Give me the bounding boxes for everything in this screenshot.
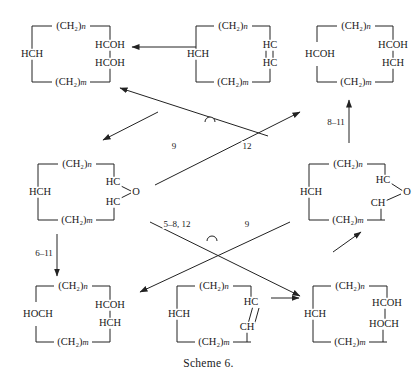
structure-bot-left: (CH₂)n (CH₂)m HOCH HCOH HCH — [18, 276, 128, 354]
chain-bottom: (CH₂)m — [339, 77, 372, 88]
chain-bottom: (CH₂)m — [333, 337, 366, 348]
structure-top-right: (CH₂)n (CH₂)m HCOH HCOH HCH — [305, 14, 410, 94]
chain-bottom: (CH₂)m — [56, 337, 89, 348]
figure-caption: Scheme 6. — [0, 357, 417, 369]
left-group: HCH — [303, 309, 327, 320]
epoxide-oxygen: O — [131, 187, 141, 198]
right-upper-group: HCOH — [371, 298, 403, 309]
arrow-label-upper-cross-right: 12 — [242, 141, 253, 151]
chain-bottom: (CH₂)m — [54, 77, 87, 88]
arrow-diagonal-short-downleft — [103, 112, 158, 140]
left-group: HCH — [186, 49, 210, 60]
chain-top: (CH₂)n — [217, 21, 249, 32]
chain-bottom: (CH₂)m — [331, 215, 364, 226]
crossing-hop-lower — [207, 236, 217, 241]
structure-top-left: (CH₂)n (CH₂)m HCH HCOH HCOH — [18, 14, 126, 94]
left-group: HCH — [28, 187, 52, 198]
arrow-label-lower-cross-left: 5–8, 12 — [163, 219, 192, 229]
crossing-hop-upper — [205, 117, 215, 122]
arrow-midright-to-topleft — [120, 88, 268, 136]
arrow-label-left-vertical: 6–11 — [34, 248, 54, 258]
chain-top: (CH₂)n — [61, 159, 93, 170]
chain-top: (CH₂)n — [55, 21, 87, 32]
left-group: HCOH — [304, 49, 336, 60]
right-lower-group: HOCH — [368, 319, 400, 330]
left-group: HCH — [299, 187, 323, 198]
structure-bot-right: (CH₂)n (CH₂)m HCH HCOH HOCH — [299, 276, 411, 354]
arrow-label-right-vertical: 8–11 — [326, 117, 346, 127]
chain-bottom: (CH₂)m — [197, 337, 230, 348]
arrow-label-upper-cross-left: 9 — [171, 141, 178, 151]
right-upper-group: HCOH — [94, 300, 126, 311]
right-lower-group: HCOH — [94, 58, 126, 69]
chain-bottom: (CH₂)m — [60, 215, 93, 226]
arrow-label-lower-cross-right: 9 — [244, 219, 251, 229]
chain-top: (CH₂)n — [340, 21, 372, 32]
chain-top: (CH₂)n — [57, 281, 89, 292]
right-lower-group: HCH — [381, 58, 405, 69]
epoxide-oxygen: O — [402, 187, 412, 198]
chain-top: (CH₂)n — [332, 159, 364, 170]
chain-top: (CH₂)n — [198, 281, 230, 292]
structure-mid-left: (CH₂)n (CH₂)m HCH HC HC O — [26, 152, 136, 232]
right-lower-group: CH — [370, 198, 387, 209]
right-upper-group: HC — [243, 297, 260, 308]
left-group: HOCH — [22, 309, 54, 320]
left-group: HCH — [20, 49, 44, 60]
structure-bot-center: (CH₂)n (CH₂)m HCH HC CH — [165, 276, 270, 354]
arrow-botcenter-to-midright — [333, 232, 361, 252]
chain-bottom: (CH₂)m — [216, 77, 249, 88]
right-upper-group: HCOH — [377, 40, 409, 51]
right-lower-group: CH — [239, 322, 256, 333]
left-group: HCH — [167, 309, 191, 320]
structure-mid-right: (CH₂)n (CH₂)m HCH HC CH O — [297, 152, 409, 232]
right-lower-group: HC — [105, 197, 122, 208]
right-upper-group: HC — [375, 175, 392, 186]
right-lower-group: HCH — [98, 318, 122, 329]
right-upper-group: HCOH — [94, 40, 126, 51]
right-upper-group: HC — [105, 177, 122, 188]
chain-top: (CH₂)n — [334, 281, 366, 292]
right-upper-group: HC — [262, 40, 279, 51]
right-lower-group: HC — [262, 58, 279, 69]
structure-top-center: (CH₂)n (CH₂)m HCH HC HC — [186, 14, 286, 94]
scheme-diagram: (CH₂)n (CH₂)m HCH HCOH HCOH (CH₂)n (CH₂)… — [0, 0, 417, 381]
